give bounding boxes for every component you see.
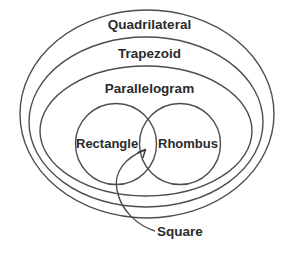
venn-diagram: Quadrilateral Trapezoid Parallelogram Re…: [0, 0, 299, 253]
label-parallelogram: Parallelogram: [0, 81, 299, 96]
label-square: Square: [157, 224, 203, 239]
label-trapezoid: Trapezoid: [0, 46, 299, 61]
square-callout-line: [116, 150, 155, 231]
label-quadrilateral: Quadrilateral: [0, 17, 299, 32]
venn-diagram-canvas: [0, 0, 299, 253]
label-rhombus: Rhombus: [158, 136, 218, 151]
label-rectangle: Rectangle: [76, 136, 138, 151]
quadrilateral-ellipse: [20, 10, 274, 218]
